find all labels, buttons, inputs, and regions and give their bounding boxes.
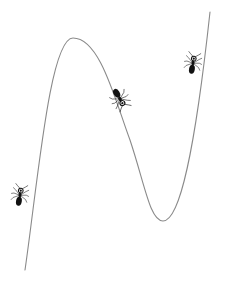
cubic-curve-diagram xyxy=(0,0,225,282)
ant-left-icon xyxy=(9,183,30,207)
cubic-curve xyxy=(25,12,210,270)
ant-middle-icon xyxy=(106,84,134,113)
ant-right-icon xyxy=(182,51,203,75)
